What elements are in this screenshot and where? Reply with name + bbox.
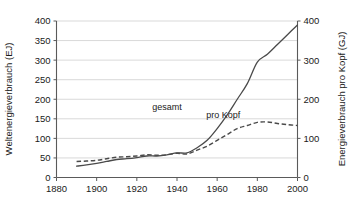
tick-marks <box>54 21 301 181</box>
y-tick-label-left-100: 100 <box>35 133 51 144</box>
series-label-pro-kopf: pro Kopf <box>206 110 241 120</box>
y-tick-label-right-200: 200 <box>304 94 320 105</box>
series-annotations: gesamt pro Kopf <box>152 102 240 120</box>
x-tick-label-1880: 1880 <box>46 183 67 194</box>
y-tick-label-right-300: 300 <box>304 55 320 66</box>
y-tick-label-left-350: 350 <box>35 35 51 46</box>
y-tick-label-left-200: 200 <box>35 94 51 105</box>
y-tick-label-right-400: 400 <box>304 15 320 26</box>
gridlines <box>57 21 298 158</box>
x-tick-label-1920: 1920 <box>126 183 147 194</box>
y-tick-label-left-150: 150 <box>35 113 51 124</box>
y-tick-label-left-400: 400 <box>35 15 51 26</box>
data-series <box>77 25 298 166</box>
y-tick-label-right-100: 100 <box>304 133 320 144</box>
x-tick-label-1980: 1980 <box>247 183 268 194</box>
y-tick-label-left-0: 0 <box>45 172 50 183</box>
y-axis-right-title: Energieverbrauch pro Kopf (GJ) <box>336 32 347 167</box>
series-line-pro-kopf <box>77 122 298 162</box>
x-tick-label-2000: 2000 <box>287 183 308 194</box>
series-line-gesamt <box>77 25 298 166</box>
y-tick-label-left-50: 50 <box>40 152 51 163</box>
y-tick-label-right-0: 0 <box>304 172 309 183</box>
y-axis-left-title: Weltenergieverbrauch (EJ) <box>3 43 14 156</box>
x-tick-label-1900: 1900 <box>86 183 107 194</box>
energy-consumption-line-chart: 0501001502002503003504000100200300400188… <box>0 0 357 209</box>
x-tick-label-1960: 1960 <box>207 183 228 194</box>
y-tick-label-left-300: 300 <box>35 55 51 66</box>
series-label-gesamt: gesamt <box>152 102 182 112</box>
x-tick-label-1940: 1940 <box>166 183 187 194</box>
chart-container: 0501001502002503003504000100200300400188… <box>0 0 357 209</box>
y-tick-label-left-250: 250 <box>35 74 51 85</box>
